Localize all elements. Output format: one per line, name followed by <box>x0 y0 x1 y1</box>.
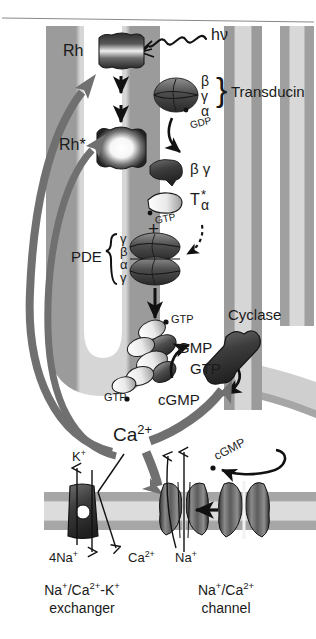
label-calcium: Ca2+ <box>113 425 152 444</box>
pde-brace <box>106 234 117 284</box>
label-potassium: K+ <box>72 450 86 463</box>
label-cyclase: Cyclase <box>228 307 281 322</box>
label-calcium-charge: 2+ <box>137 422 152 437</box>
cap-ex-na: Na <box>44 582 62 598</box>
label-four-sodium: 4Na+ <box>49 551 78 564</box>
cap-ch-na: Na <box>198 582 216 598</box>
label-photon: hν <box>211 27 228 43</box>
label-sodium-in-charge: + <box>192 549 197 559</box>
t-alpha-to-pde-dotted-arrow <box>187 225 202 254</box>
cap-ex-ca: /Ca <box>68 582 90 598</box>
label-four-sodium-charge: + <box>73 549 78 559</box>
figure-canvas: Rh hν Rh* β γ α GDP } Transducin β γ T *… <box>0 0 316 639</box>
label-transducin-gamma: γ <box>201 89 208 103</box>
label-calcium-out: Ca2+ <box>128 551 155 564</box>
label-transducin-beta: β <box>201 74 209 88</box>
caption-channel-line1: Na+/Ca2+ <box>198 583 254 597</box>
label-sodium-in-text: Na <box>175 550 192 565</box>
label-pde: PDE <box>71 249 102 264</box>
caption-channel-line2: channel <box>198 601 254 615</box>
cap-ex-ca-sup: 2+ <box>89 580 100 591</box>
label-gtp-upper: GTP <box>171 314 194 325</box>
pde-complex-icon <box>130 233 180 285</box>
calcium-feedback-gray-arrow <box>150 380 232 441</box>
cap-ch-ca: /Ca <box>221 582 243 598</box>
caption-channel: Na+/Ca2+ channel <box>198 583 254 615</box>
label-beta-gamma: β γ <box>190 161 210 176</box>
sodium-calcium-potassium-exchanger-icon <box>68 484 98 539</box>
label-t-alpha-subscript: α <box>201 198 209 212</box>
label-cgmp-cycle: cGMP <box>158 392 200 407</box>
rhodopsin-active-protein-icon <box>97 127 146 169</box>
cap-ch-ca-sup: 2+ <box>243 580 254 591</box>
caption-exchanger: Na+/Ca2+-K+ exchanger <box>44 583 120 615</box>
label-potassium-charge: + <box>81 448 86 458</box>
transducin-heterotrimer-icon <box>154 78 198 112</box>
calcium-influx-gray-arrow <box>142 452 164 495</box>
cap-ex-k-sup: + <box>114 580 120 591</box>
transducin-brace: } <box>216 72 227 106</box>
caption-exchanger-line2: exchanger <box>44 601 120 615</box>
label-gtp-lower: GTP <box>104 392 127 403</box>
label-calcium-text: Ca <box>113 424 137 445</box>
label-calcium-out-text: Ca <box>128 550 145 565</box>
label-t-alpha: T <box>190 192 200 208</box>
top-rule <box>2 18 314 22</box>
cgmp-gated-channel-closed-icon <box>219 481 270 539</box>
label-rhodopsin: Rh <box>63 43 83 59</box>
caption-exchanger-line1: Na+/Ca2+-K+ <box>44 583 120 597</box>
label-potassium-text: K <box>72 449 81 464</box>
label-gtp-cycle: GTP <box>190 361 221 376</box>
label-plus: + <box>148 219 159 238</box>
label-rhodopsin-active: Rh* <box>59 137 86 153</box>
label-transducin: Transducin <box>231 84 305 99</box>
label-gmp: GMP <box>178 340 212 355</box>
label-sodium-in: Na+ <box>175 551 197 564</box>
cap-ex-k: -K <box>100 582 114 598</box>
label-pde-sub-4: γ <box>120 271 127 284</box>
transducin-dissociation-arrow <box>169 118 180 152</box>
label-calcium-out-charge: 2+ <box>145 549 155 559</box>
rhodopsin-protein-icon <box>99 33 144 69</box>
label-four-sodium-text: 4Na <box>49 550 73 565</box>
